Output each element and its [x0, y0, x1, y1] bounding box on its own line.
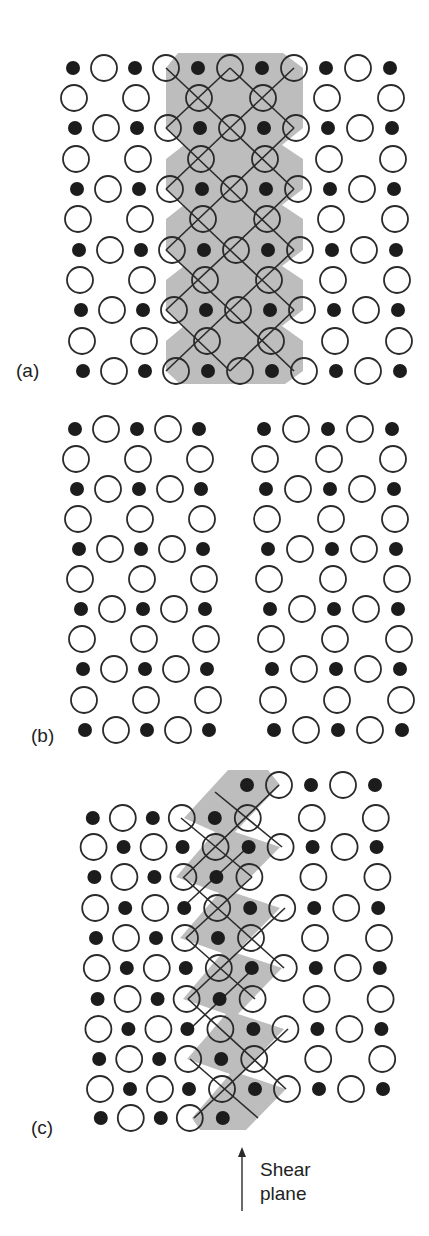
shear-plane-arrow-icon	[238, 1147, 246, 1211]
anion-icon	[363, 805, 389, 831]
cation-icon	[92, 1052, 106, 1066]
anion-icon	[349, 176, 375, 202]
cation-icon	[132, 482, 146, 496]
anion-icon	[386, 626, 412, 652]
cation-icon	[257, 422, 271, 436]
cation-icon	[154, 1111, 168, 1125]
cation-icon	[243, 901, 257, 915]
anion-icon	[125, 446, 151, 472]
cation-icon	[325, 542, 339, 556]
anion-icon	[99, 297, 125, 323]
anion-icon	[195, 687, 221, 713]
anion-icon	[145, 1016, 171, 1042]
cation-icon	[208, 811, 222, 825]
cation-icon	[134, 542, 148, 556]
anion-icon	[388, 687, 414, 713]
cation-icon	[193, 121, 207, 135]
anion-icon	[353, 297, 379, 323]
anion-icon	[332, 834, 358, 860]
cation-icon	[265, 662, 279, 676]
anion-icon	[123, 85, 149, 111]
cation-icon	[383, 61, 397, 75]
cation-icon	[123, 1082, 137, 1096]
cation-icon	[74, 303, 88, 317]
anion-icon	[116, 1046, 142, 1072]
cation-icon	[261, 243, 275, 257]
cation-icon	[195, 182, 209, 196]
anion-icon	[193, 626, 219, 652]
anion-icon	[155, 416, 181, 442]
cation-icon	[389, 243, 403, 257]
anion-icon	[65, 506, 91, 532]
cation-icon	[177, 901, 191, 915]
cation-icon	[309, 961, 323, 975]
cation-icon	[176, 840, 190, 854]
cation-icon	[130, 121, 144, 135]
anion-icon	[67, 566, 93, 592]
anion-icon	[368, 986, 394, 1012]
anion-icon	[82, 895, 108, 921]
anion-icon	[384, 267, 410, 293]
anion-icon	[318, 506, 344, 532]
cation-icon	[198, 602, 212, 616]
panel-c-sheared-lattice	[81, 770, 396, 1131]
anion-icon	[380, 146, 406, 172]
cation-icon	[321, 422, 335, 436]
cation-icon	[331, 723, 345, 737]
cation-icon	[385, 422, 399, 436]
cation-icon	[180, 1022, 194, 1036]
cation-icon	[196, 542, 210, 556]
cation-icon	[391, 602, 405, 616]
cation-icon	[152, 1052, 166, 1066]
anion-icon	[110, 805, 136, 831]
cation-icon	[387, 182, 401, 196]
anion-icon	[191, 566, 217, 592]
cation-icon	[136, 602, 150, 616]
cation-icon	[87, 870, 101, 884]
anion-icon	[189, 506, 215, 532]
cation-icon	[121, 1022, 135, 1036]
cation-icon	[393, 662, 407, 676]
anion-icon	[336, 1016, 362, 1042]
cation-icon	[149, 931, 163, 945]
anion-icon	[95, 176, 121, 202]
cation-icon	[140, 723, 154, 737]
anion-icon	[283, 416, 309, 442]
anion-icon	[302, 925, 328, 951]
cation-icon	[134, 243, 148, 257]
cation-icon	[214, 1052, 228, 1066]
cation-icon	[118, 901, 132, 915]
arrow-head-icon	[238, 1147, 246, 1157]
cation-icon	[255, 61, 269, 75]
cation-icon	[128, 61, 142, 75]
cation-icon	[146, 811, 160, 825]
anion-icon	[299, 805, 325, 831]
anion-icon	[161, 596, 187, 622]
cation-icon	[68, 422, 82, 436]
anion-icon	[71, 687, 97, 713]
shear-plane-label-line2: plane	[260, 1182, 311, 1206]
cation-icon	[371, 901, 385, 915]
anion-icon	[159, 536, 185, 562]
cation-icon	[147, 870, 161, 884]
cation-icon	[201, 364, 215, 378]
anion-icon	[318, 206, 344, 232]
panel-label-b: (b)	[31, 725, 54, 747]
cation-icon	[325, 243, 339, 257]
cation-icon	[321, 121, 335, 135]
cation-icon	[72, 243, 86, 257]
cation-icon	[211, 931, 225, 945]
cation-icon	[393, 364, 407, 378]
cation-icon	[389, 542, 403, 556]
cation-icon	[263, 602, 277, 616]
cation-icon	[323, 482, 337, 496]
anion-icon	[61, 85, 87, 111]
cation-icon	[259, 182, 273, 196]
cation-icon	[216, 1111, 230, 1125]
anion-icon	[97, 536, 123, 562]
cation-icon	[327, 602, 341, 616]
anion-icon	[304, 986, 330, 1012]
cation-icon	[368, 778, 382, 792]
cation-icon	[200, 662, 214, 676]
anion-icon	[289, 596, 315, 622]
